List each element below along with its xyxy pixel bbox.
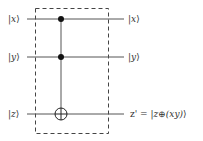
control-dot-x xyxy=(58,16,64,22)
toffoli-circuit: |x⟩ |y⟩ |z⟩ |x⟩ |y⟩ z' = |z⊕(xy)⟩ xyxy=(0,0,203,141)
input-label-x: |x⟩ xyxy=(8,14,20,25)
input-label-z: |z⟩ xyxy=(8,109,19,120)
gate-box xyxy=(36,9,109,134)
control-dot-y xyxy=(58,54,64,60)
target-xor-icon xyxy=(55,108,67,120)
output-label-z: z' = |z⊕(xy)⟩ xyxy=(130,109,187,120)
output-label-x: |x⟩ xyxy=(128,14,140,25)
input-label-y: |y⟩ xyxy=(8,52,20,63)
output-label-y: |y⟩ xyxy=(128,52,140,63)
